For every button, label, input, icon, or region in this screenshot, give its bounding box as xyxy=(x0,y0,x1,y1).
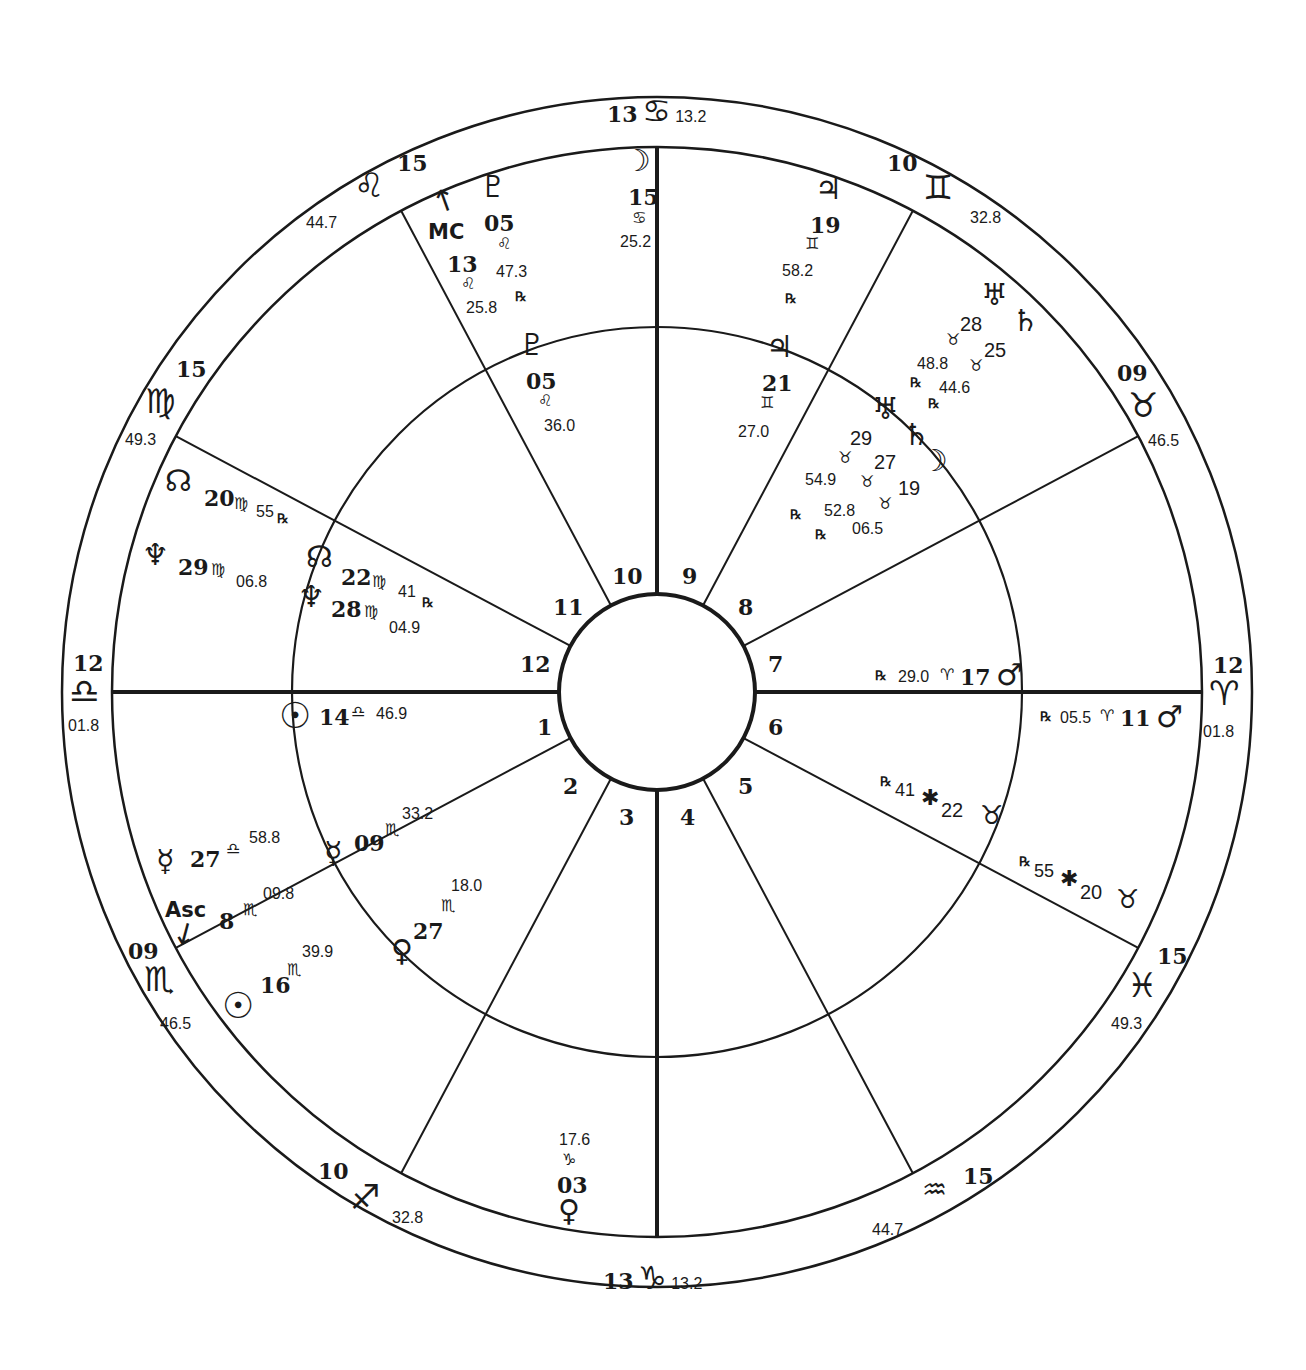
asc-sign-scorpio-icon: ♏ xyxy=(243,902,257,918)
mars-inner-retrograde: ℞ xyxy=(875,669,887,682)
chiron-outer-retrograde: ℞ xyxy=(1019,855,1031,868)
cusp-sagittarius-minutes: 32.8 xyxy=(392,1210,423,1226)
moon-outer-degree: 15 xyxy=(628,186,659,208)
mercury-outer-degree: 27 xyxy=(190,848,221,870)
house-number-6: 6 xyxy=(768,716,783,738)
aries-icon: ♈ xyxy=(1209,676,1239,710)
sagittarius-icon: ♐ xyxy=(350,1180,380,1214)
mercury-outer-icon: ☿ xyxy=(156,846,174,876)
cusp-gemini-minutes: 32.8 xyxy=(970,210,1001,226)
chiron-inner-icon: ♉︎ xyxy=(980,802,1003,828)
chiron-outer-minutes: 55 xyxy=(1034,862,1054,880)
pluto-inner-icon: ♇ xyxy=(519,330,546,360)
cusp-minutes: 13.2 xyxy=(671,1275,702,1292)
pluto-inner-degree: 05 xyxy=(526,370,557,392)
pluto-outer-retrograde: ℞ xyxy=(515,290,527,303)
libra-icon: ♎ xyxy=(69,674,99,708)
mc-degree: 13 xyxy=(447,253,478,275)
cusp-degree: 13 xyxy=(603,1268,634,1294)
gemini-icon: ♊ xyxy=(923,170,953,204)
moon-inner-minutes: 06.5 xyxy=(852,521,883,537)
mars-outer-retrograde: ℞ xyxy=(1040,710,1052,723)
house-number-3: 3 xyxy=(619,806,634,828)
moon-outer-minutes: 25.2 xyxy=(620,234,651,250)
venus-outer-icon: ♀ xyxy=(558,1196,580,1226)
uranus-outer-minutes: 48.8 xyxy=(917,356,948,372)
jupiter-outer-sign-icon: ♊ xyxy=(805,236,819,252)
venus-inner-sign-icon: ♏ xyxy=(441,898,455,914)
mc-minutes: 25.8 xyxy=(466,300,497,316)
hub-ring xyxy=(559,594,755,790)
venus-outer-minutes: 17.6 xyxy=(559,1132,590,1148)
mars-outer-minutes: 05.5 xyxy=(1060,710,1091,726)
north-node-outer-icon: ☊ xyxy=(165,466,192,496)
north-node-outer-retrograde: ℞ xyxy=(277,512,289,525)
house-5-cusp-line xyxy=(703,779,913,1174)
sun-inner-degree: 14 xyxy=(319,706,350,728)
sun-inner-minutes: 46.9 xyxy=(376,706,407,722)
cusp-scorpio-minutes: 46.5 xyxy=(160,1016,191,1032)
scorpio-icon: ♏ xyxy=(144,962,174,996)
capricorn-icon: ♑ xyxy=(638,1259,667,1297)
mars-outer-icon: ♂ xyxy=(1156,702,1183,732)
uranus-outer-degree: 28 xyxy=(960,314,982,334)
house-6-cusp-line xyxy=(744,738,1139,948)
neptune-inner-icon: ♆ xyxy=(298,582,325,612)
north-node-inner-minutes: 41 xyxy=(398,584,416,600)
neptune-inner-sign-icon: ♍ xyxy=(364,604,378,620)
saturn-inner-minutes: 52.8 xyxy=(824,503,855,519)
north-node-outer-degree: 20 xyxy=(204,487,235,509)
mercury-outer-minutes: 58.8 xyxy=(249,830,280,846)
chiron-outer-icon: ♉︎ xyxy=(1116,886,1139,912)
pluto-outer-sign-icon: ♌ xyxy=(497,236,511,252)
mc-label: MC xyxy=(428,222,464,243)
saturn-inner-degree: 27 xyxy=(874,452,896,472)
house-number-12: 12 xyxy=(520,653,551,675)
house-number-2: 2 xyxy=(563,775,578,797)
sun-outer-icon: ☉ xyxy=(222,988,254,1024)
uranus-inner-retrograde: ℞ xyxy=(790,508,802,521)
moon-inner-sign-icon: ♉ xyxy=(878,496,892,512)
uranus-inner-icon: ♅ xyxy=(872,394,899,424)
moon-outer-icon: ☽ xyxy=(624,146,651,176)
chiron-inner-retrograde: ℞ xyxy=(880,775,892,788)
house-number-5: 5 xyxy=(738,775,753,797)
mercury-inner-icon: ☿ xyxy=(324,838,342,868)
chiron-inner-degree: 22 xyxy=(941,800,963,820)
asc-minutes: 09.8 xyxy=(263,886,294,902)
mars-inner-sign-icon: ♈ xyxy=(940,667,954,683)
cusp-leo-minutes: 44.7 xyxy=(306,215,337,231)
chiron-inner-minutes: 41 xyxy=(895,781,915,799)
cusp-leo-degree: 15 xyxy=(397,152,428,174)
pisces-icon: ♓ xyxy=(1127,968,1157,1002)
mars-inner-degree: 17 xyxy=(960,666,991,688)
north-node-inner-retrograde: ℞ xyxy=(422,596,434,609)
sun-outer-sign-icon: ♏ xyxy=(287,962,301,978)
chiron-outer-degree: 20 xyxy=(1080,882,1102,902)
neptune-inner-minutes: 04.9 xyxy=(389,620,420,636)
house-number-9: 9 xyxy=(682,565,697,587)
cancer-icon: ♋ xyxy=(642,92,671,130)
chiron-outer-asterisk-icon: ✱ xyxy=(1060,868,1078,890)
house-number-1: 1 xyxy=(537,716,552,738)
cusp-aries-minutes: 01.8 xyxy=(1203,724,1234,740)
saturn-outer-retrograde: ℞ xyxy=(928,397,940,410)
saturn-outer-icon: ♄ xyxy=(1012,306,1039,336)
house-number-8: 8 xyxy=(738,596,753,618)
mars-outer-sign-icon: ♈ xyxy=(1100,708,1114,724)
virgo-icon: ♍ xyxy=(145,384,175,418)
cusp-gemini-degree: 10 xyxy=(887,152,918,174)
pluto-inner-sign-icon: ♌ xyxy=(538,393,552,409)
house-number-11: 11 xyxy=(553,596,584,618)
mercury-inner-minutes: 33.2 xyxy=(402,806,433,822)
uranus-outer-icon: ♅ xyxy=(981,280,1008,310)
saturn-inner-retrograde: ℞ xyxy=(815,528,827,541)
mercury-inner-degree: 09 xyxy=(354,832,385,854)
jupiter-inner-icon: ♃ xyxy=(766,332,793,362)
saturn-outer-minutes: 44.6 xyxy=(939,380,970,396)
jupiter-outer-icon: ♃ xyxy=(815,174,842,204)
venus-inner-minutes: 18.0 xyxy=(451,878,482,894)
mercury-inner-sign-icon: ♏ xyxy=(385,822,399,838)
north-node-inner-degree: 22 xyxy=(341,566,372,588)
moon-inner-icon: ☽ xyxy=(921,446,948,476)
